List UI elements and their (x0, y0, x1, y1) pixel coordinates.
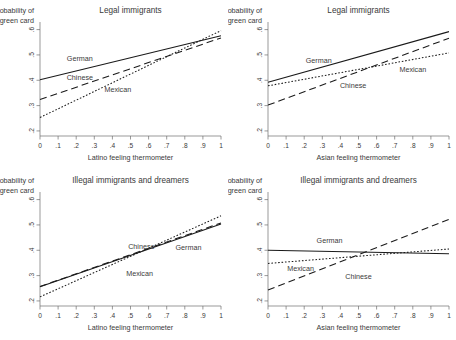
chart-svg-bottom-left: Illegal immigrants and dreamersProbabili… (0, 170, 228, 340)
x-tick-label: .2 (301, 142, 307, 149)
series-label-german: German (317, 236, 343, 245)
panel-title: Illegal immigrants and dreamers (72, 176, 189, 185)
y-tick-label: .3 (256, 273, 263, 279)
x-tick-label: 1 (447, 142, 451, 149)
x-tick-label: .8 (182, 142, 188, 149)
y-tick-label: .5 (28, 222, 35, 228)
x-tick-label: 0 (38, 312, 42, 319)
y-tick-label: .4 (28, 247, 35, 253)
series-label-german: German (175, 243, 201, 252)
x-tick-label: 0 (266, 312, 270, 319)
x-axis-title: Latino feeling thermometer (88, 153, 174, 162)
x-tick-label: 0 (38, 142, 42, 149)
chart-svg-bottom-right: Illegal immigrants and dreamersProbabili… (228, 170, 456, 340)
series-label-chinese: Chinese (340, 81, 366, 90)
chart-panel-bottom-left: Illegal immigrants and dreamersProbabili… (0, 170, 228, 340)
series-label-chinese: Chinese (345, 272, 371, 281)
x-axis-title: Asian feeling thermometer (317, 323, 402, 332)
x-tick-label: .1 (283, 312, 289, 319)
x-tick-label: .4 (110, 142, 116, 149)
x-tick-label: .1 (55, 312, 61, 319)
series-line-mexican (40, 216, 221, 297)
y-tick-label: .2 (28, 298, 35, 304)
series-label-german: German (306, 56, 332, 65)
x-tick-label: .5 (356, 142, 362, 149)
chart-svg-top-right: Legal immigrantsProbability ofgreen card… (228, 0, 456, 170)
x-tick-label: .5 (128, 142, 134, 149)
x-tick-label: .9 (428, 312, 434, 319)
x-tick-label: .8 (410, 142, 416, 149)
y-tick-label: .5 (256, 222, 263, 228)
x-tick-label: .3 (320, 312, 326, 319)
x-tick-label: .6 (146, 312, 152, 319)
y-axis-label-line2: green card (228, 186, 262, 195)
series-label-mexican: Mexican (126, 269, 153, 278)
x-tick-label: .3 (320, 142, 326, 149)
x-tick-label: .8 (410, 312, 416, 319)
chart-panel-bottom-right: Illegal immigrants and dreamersProbabili… (228, 170, 456, 340)
x-tick-label: .4 (338, 142, 344, 149)
chart-panel-top-left: Legal immigrantsProbability ofgreen card… (0, 0, 228, 170)
x-tick-label: .7 (164, 142, 170, 149)
y-axis-label-line2: green card (0, 186, 34, 195)
x-axis-title: Asian feeling thermometer (317, 153, 402, 162)
x-tick-label: 0 (266, 142, 270, 149)
x-tick-label: .5 (128, 312, 134, 319)
series-label-chinese: Chinese (128, 242, 154, 251)
y-tick-label: .4 (256, 247, 263, 253)
x-tick-label: .9 (200, 142, 206, 149)
x-tick-label: .7 (392, 142, 398, 149)
x-tick-label: .4 (110, 312, 116, 319)
series-label-german: German (67, 54, 93, 63)
y-tick-label: .5 (256, 52, 263, 58)
chart-panel-top-right: Legal immigrantsProbability ofgreen card… (228, 0, 456, 170)
x-tick-label: .7 (392, 312, 398, 319)
x-tick-label: .1 (283, 142, 289, 149)
y-tick-label: .6 (256, 27, 263, 33)
series-label-mexican: Mexican (287, 264, 314, 273)
x-tick-label: .2 (73, 142, 79, 149)
series-label-chinese: Chinese (67, 73, 93, 82)
y-tick-label: .2 (256, 128, 263, 134)
panel-grid: Legal immigrantsProbability ofgreen card… (0, 0, 456, 340)
series-line-german (268, 32, 449, 83)
y-tick-label: .4 (28, 77, 35, 83)
y-axis-label-line1: Probability of (0, 176, 34, 185)
x-tick-label: 1 (219, 142, 223, 149)
y-axis-label-line1: Probability of (0, 6, 34, 15)
series-label-mexican: Mexican (104, 85, 131, 94)
x-tick-label: .8 (182, 312, 188, 319)
x-tick-label: .3 (92, 312, 98, 319)
y-tick-label: .2 (28, 128, 35, 134)
y-tick-label: .2 (256, 298, 263, 304)
panel-title: Illegal immigrants and dreamers (300, 176, 417, 185)
y-tick-label: .3 (256, 103, 263, 109)
y-axis-label-line1: Probability of (228, 6, 262, 15)
y-tick-label: .3 (28, 273, 35, 279)
y-tick-label: .5 (28, 52, 35, 58)
series-label-mexican: Mexican (399, 65, 426, 74)
y-axis-label-line1: Probability of (228, 176, 262, 185)
y-tick-label: .6 (256, 197, 263, 203)
y-tick-label: .3 (28, 103, 35, 109)
x-tick-label: .6 (374, 312, 380, 319)
x-tick-label: .4 (338, 312, 344, 319)
x-tick-label: .3 (92, 142, 98, 149)
y-tick-label: .6 (28, 27, 35, 33)
chart-svg-top-left: Legal immigrantsProbability ofgreen card… (0, 0, 228, 170)
x-tick-label: .7 (164, 312, 170, 319)
x-tick-label: .9 (428, 142, 434, 149)
panel-title: Legal immigrants (327, 6, 389, 15)
x-tick-label: .6 (146, 142, 152, 149)
y-tick-label: .4 (256, 77, 263, 83)
x-tick-label: .6 (374, 142, 380, 149)
panel-title: Legal immigrants (99, 6, 161, 15)
x-axis-title: Latino feeling thermometer (88, 323, 174, 332)
x-tick-label: 1 (219, 312, 223, 319)
x-tick-label: 1 (447, 312, 451, 319)
y-axis-label-line2: green card (228, 16, 262, 25)
x-tick-label: .9 (200, 312, 206, 319)
x-tick-label: .5 (356, 312, 362, 319)
x-tick-label: .2 (73, 312, 79, 319)
x-tick-label: .1 (55, 142, 61, 149)
